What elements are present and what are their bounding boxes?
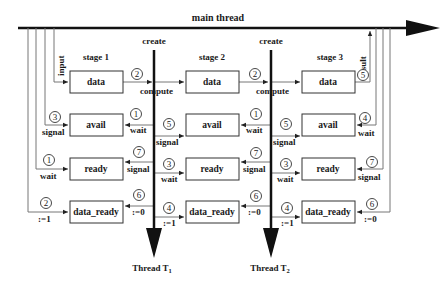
step-number: 4 (363, 113, 368, 123)
step-number: 7 (137, 147, 142, 157)
stage-2-label: stage 2 (199, 52, 226, 62)
stage-3-avail-label: avail (318, 120, 338, 130)
t2-edge-labels: 2 compute 1 wait 5 signal 7 signal 3 wai… (243, 69, 296, 229)
step-number: 5 (361, 70, 366, 80)
stage-3-data-label: data (319, 77, 337, 87)
thread-t1-arrowhead-icon (146, 228, 162, 258)
assign-label: :=0 (132, 207, 145, 217)
t1-label: Thread T1 (132, 263, 172, 274)
pipeline-diagram: main thread crea (0, 0, 441, 284)
step-number: 7 (370, 157, 375, 167)
t1-create-label: create (142, 36, 165, 46)
thread-t2-arrowhead-icon (263, 228, 279, 258)
main-thread-arrowhead-icon (406, 20, 440, 36)
compute-label: compute (256, 86, 289, 96)
stage-3-label: stage 3 (317, 52, 344, 62)
input-label: input (56, 55, 66, 76)
stage-2: stage 2 data avail ready data_ready (186, 52, 239, 223)
step-number: 3 (284, 159, 289, 169)
step-number: 4 (285, 203, 290, 213)
assign-label: :=1 (163, 218, 176, 228)
step-number: 1 (254, 109, 259, 119)
step-number: 7 (254, 148, 259, 158)
main-thread: main thread (18, 12, 440, 36)
t2-create-label: create (259, 36, 282, 46)
stage-2-data-ready-label: data_ready (189, 207, 235, 217)
wait-label: wait (40, 171, 57, 181)
step-number: 1 (47, 155, 52, 165)
wait-label: wait (161, 174, 178, 184)
t2-edges (239, 82, 300, 217)
step-number: 4 (167, 203, 172, 213)
step-number: 6 (137, 190, 142, 200)
compute-label: compute (140, 86, 173, 96)
signal-label: signal (42, 127, 65, 137)
step-number: 5 (284, 119, 289, 129)
stage-3: stage 3 data avail ready data_ready (302, 52, 355, 223)
wait-label: wait (358, 128, 375, 138)
assign-label: :=1 (38, 214, 51, 224)
assign-label: :=0 (364, 214, 377, 224)
signal-label: signal (358, 172, 381, 182)
stage-3-ready-label: ready (316, 164, 339, 174)
stage-1-label: stage 1 (83, 52, 110, 62)
left-edge-labels: input 3 signal 1 wait 2 :=1 (38, 55, 66, 224)
stage-3-data-ready-label: data_ready (305, 207, 351, 217)
wait-label: wait (246, 125, 263, 135)
step-number: 6 (254, 191, 259, 201)
step-number: 3 (53, 112, 58, 122)
step-number: 6 (370, 199, 375, 209)
wait-label: wait (277, 174, 294, 184)
assign-label: :=1 (281, 218, 294, 228)
stage-1-data-ready-label: data_ready (73, 207, 119, 217)
step-number: 2 (44, 198, 49, 208)
step-number: 1 (134, 109, 139, 119)
assign-label: :=0 (248, 207, 261, 217)
signal-label: signal (243, 164, 266, 174)
right-edge-labels: result 5 4 wait 7 signal 6 :=0 (358, 56, 382, 224)
signal-label: signal (127, 164, 150, 174)
step-number: 5 (167, 119, 172, 129)
stage-2-ready-label: ready (200, 164, 223, 174)
step-number: 2 (135, 69, 140, 79)
main-thread-label: main thread (192, 12, 245, 23)
stage-1-avail-label: avail (86, 120, 106, 130)
t2-label: Thread T2 (250, 263, 290, 274)
stage-1-data-label: data (87, 77, 105, 87)
step-number: 3 (167, 159, 172, 169)
step-number: 2 (253, 69, 258, 79)
wait-label: wait (130, 125, 147, 135)
stage-2-data-label: data (203, 77, 221, 87)
stage-1: stage 1 data avail ready data_ready (70, 52, 123, 223)
stage-2-avail-label: avail (202, 120, 222, 130)
stage-1-ready-label: ready (84, 164, 107, 174)
signal-label: signal (273, 137, 296, 147)
signal-label: signal (156, 137, 179, 147)
